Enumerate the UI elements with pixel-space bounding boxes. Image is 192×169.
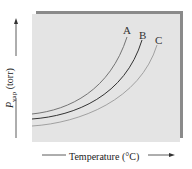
y-axis-label: Pvap (torr) xyxy=(4,50,20,110)
curve-label-a: A xyxy=(123,24,131,36)
y-axis-arrowhead-icon xyxy=(14,18,18,24)
y-axis-label-main: P xyxy=(4,102,15,108)
y-axis-label-sub: vap xyxy=(10,92,18,102)
x-axis-label: Temperature (°C) xyxy=(69,151,139,162)
x-axis-arrowhead-icon xyxy=(169,153,175,157)
chart-curves xyxy=(0,0,192,169)
curve-label-b: B xyxy=(139,29,146,41)
y-axis-label-unit: (torr) xyxy=(4,68,15,92)
curve-a xyxy=(32,37,127,114)
curve-b xyxy=(32,40,142,119)
curve-label-c: C xyxy=(155,34,162,46)
curve-c xyxy=(32,45,157,126)
